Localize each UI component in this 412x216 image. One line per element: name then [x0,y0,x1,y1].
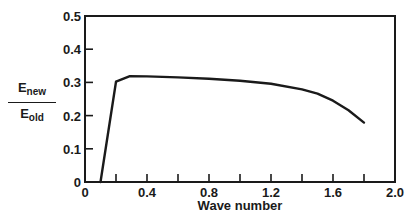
x-tick-label: 0 [81,185,88,200]
x-axis-title: Wave number [198,198,283,213]
plot-frame [85,16,395,182]
data-line [101,76,365,182]
x-tick-label: 2.0 [386,185,404,200]
y-tick-labels: 00.10.20.30.40.5 [63,9,82,190]
y-tick-label: 0.2 [63,109,81,124]
y-axis-denominator: Eold [8,103,56,126]
plot-border [85,16,395,182]
x-tick-label: 0.4 [138,185,157,200]
y-axis-numerator: Enew [8,80,56,103]
y-tick-label: 0.3 [63,75,81,90]
y-tick-label: 0.1 [63,142,81,157]
line-chart: 00.40.81.21.62.0 00.10.20.30.40.5 Wave n… [0,0,412,216]
y-axis-title: Enew Eold [8,80,56,126]
axis-ticks [85,49,364,182]
x-tick-label: 1.6 [324,185,342,200]
y-tick-label: 0.4 [63,42,82,57]
y-tick-label: 0 [74,175,81,190]
y-tick-label: 0.5 [63,9,81,24]
